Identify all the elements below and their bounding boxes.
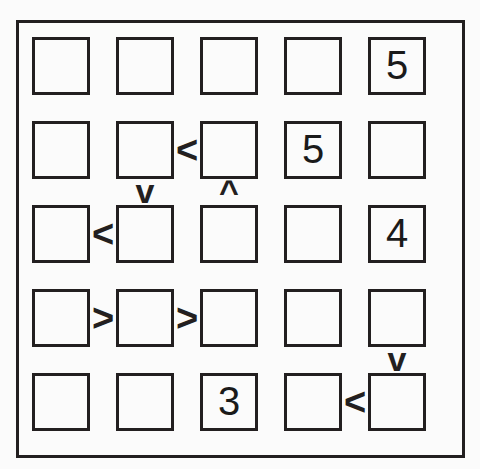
cell-value: 5 bbox=[302, 129, 324, 169]
grid-cell-r2c5[interactable] bbox=[368, 121, 426, 179]
grid-cell-r1c2[interactable] bbox=[116, 37, 174, 95]
grid-cell-r2c1[interactable] bbox=[32, 121, 90, 179]
grid-cell-r4c3[interactable] bbox=[200, 289, 258, 347]
grid-cell-r1c1[interactable] bbox=[32, 37, 90, 95]
v-inequality-c2-r2-r3[interactable]: v bbox=[125, 178, 165, 204]
grid-cell-r5c4[interactable] bbox=[284, 373, 342, 431]
grid-cell-r5c2[interactable] bbox=[116, 373, 174, 431]
h-inequality-r3-c1-c2[interactable]: < bbox=[90, 214, 116, 254]
puzzle-outer-frame: 5543<<>><v^v bbox=[16, 20, 465, 458]
cell-value: 5 bbox=[386, 45, 408, 85]
grid-cell-r1c4[interactable] bbox=[284, 37, 342, 95]
grid-cell-r2c4[interactable]: 5 bbox=[284, 121, 342, 179]
h-inequality-r4-c1-c2[interactable]: > bbox=[90, 298, 116, 338]
grid-cell-r3c3[interactable] bbox=[200, 205, 258, 263]
grid-cell-r2c2[interactable] bbox=[116, 121, 174, 179]
grid-cell-r4c2[interactable] bbox=[116, 289, 174, 347]
h-inequality-r5-c4-c5[interactable]: < bbox=[342, 382, 368, 422]
grid-cell-r5c3[interactable]: 3 bbox=[200, 373, 258, 431]
cell-value: 3 bbox=[218, 381, 240, 421]
cell-value: 4 bbox=[386, 213, 408, 253]
v-inequality-c5-r4-r5[interactable]: v bbox=[377, 346, 417, 372]
grid-cell-r3c1[interactable] bbox=[32, 205, 90, 263]
grid-cell-r3c2[interactable] bbox=[116, 205, 174, 263]
grid-cell-r3c5[interactable]: 4 bbox=[368, 205, 426, 263]
v-inequality-c3-r2-r3[interactable]: ^ bbox=[209, 178, 249, 204]
grid-cell-r4c5[interactable] bbox=[368, 289, 426, 347]
grid-cell-r1c3[interactable] bbox=[200, 37, 258, 95]
grid-cell-r5c5[interactable] bbox=[368, 373, 426, 431]
h-inequality-r2-c2-c3[interactable]: < bbox=[174, 130, 200, 170]
grid-cell-r1c5[interactable]: 5 bbox=[368, 37, 426, 95]
grid-cell-r5c1[interactable] bbox=[32, 373, 90, 431]
grid-cell-r4c1[interactable] bbox=[32, 289, 90, 347]
puzzle-canvas: 5543<<>><v^v bbox=[0, 0, 480, 469]
grid-cell-r3c4[interactable] bbox=[284, 205, 342, 263]
grid-cell-r4c4[interactable] bbox=[284, 289, 342, 347]
grid-cell-r2c3[interactable] bbox=[200, 121, 258, 179]
h-inequality-r4-c2-c3[interactable]: > bbox=[174, 298, 200, 338]
